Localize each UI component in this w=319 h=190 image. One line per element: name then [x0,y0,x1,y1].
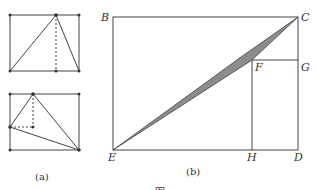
point-label-B: B [100,11,109,24]
point-label-G: G [301,61,310,74]
figure-a-top-vertices [9,13,81,72]
diagram-canvas: (a) B C F G E H D (b) 图 [0,0,319,190]
figure-b-caption: (b) [186,166,200,177]
figure-a-bottom-vertices [8,92,81,152]
point-label-H: H [246,151,257,164]
figure-a-bottom [10,94,79,150]
shaded-sliver [113,17,298,150]
point-label-F: F [254,61,263,74]
bottom-caption: 图 [155,187,165,190]
point-label-C: C [301,11,310,24]
figure-a-caption: (a) [35,171,49,182]
point-label-E: E [107,151,116,164]
figure-b [113,17,298,150]
point-label-D: D [293,151,303,164]
figure-a-top [10,15,79,71]
